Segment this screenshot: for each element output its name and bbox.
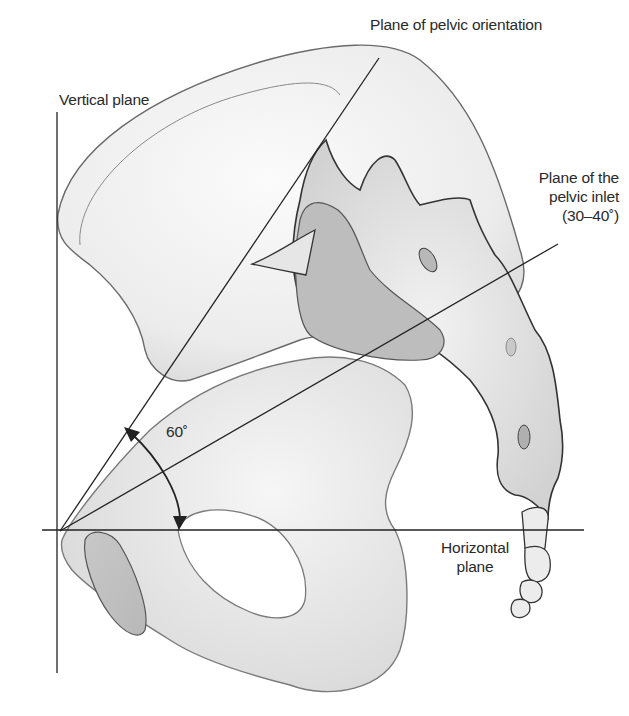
label-pelvic-inlet-line2: pelvic inlet: [479, 187, 619, 206]
sacral-foramen: [506, 338, 516, 356]
label-horizontal-line2: plane: [425, 557, 525, 576]
label-horizontal-plane: Horizontal plane: [425, 538, 525, 576]
label-pelvic-inlet-angle: (30–40˚): [479, 206, 619, 225]
sacral-foramen: [518, 425, 530, 449]
label-horizontal-line1: Horizontal: [425, 538, 525, 557]
label-plane-of-pelvic-orientation: Plane of pelvic orientation: [370, 15, 542, 34]
label-angle-60: 60˚: [166, 422, 188, 441]
label-vertical-plane: Vertical plane: [59, 90, 149, 109]
label-pelvic-inlet-line1: Plane of the: [479, 168, 619, 187]
label-plane-of-pelvic-inlet: Plane of the pelvic inlet (30–40˚): [479, 168, 619, 225]
